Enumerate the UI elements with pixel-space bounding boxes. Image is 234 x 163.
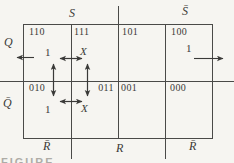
cell-code-001: 001: [121, 83, 137, 93]
axis-label-s-bar: S̄: [182, 5, 188, 17]
cell-code-011: 011: [98, 83, 114, 93]
cell-code-010: 010: [29, 83, 45, 93]
cell-value-011: X: [81, 103, 88, 114]
cell-value-110: 1: [45, 47, 51, 58]
cell-code-101: 101: [122, 27, 138, 37]
axis-label-r: R: [116, 142, 123, 154]
cell-value-100: 1: [186, 43, 192, 54]
figure-caption: FIGURE: [1, 156, 55, 163]
cell-code-111: 111: [74, 27, 89, 37]
axis-label-r-bar-left: R̄: [43, 140, 50, 152]
cell-value-111: X: [80, 46, 87, 57]
kmap-figure: S S̄ Q Q̄ R̄ R R̄ 110 111 101 100 010 01…: [0, 0, 234, 163]
cell-code-000: 000: [170, 83, 186, 93]
cell-code-100: 100: [171, 27, 187, 37]
transition-arrows: [17, 58, 223, 102]
axis-label-s: S: [69, 7, 75, 19]
axis-label-r-bar-right: R̄: [189, 140, 196, 152]
axis-label-q: Q: [4, 36, 13, 48]
cell-value-010: 1: [45, 104, 51, 115]
axis-label-q-bar: Q̄: [3, 97, 12, 109]
cell-code-110: 110: [29, 27, 45, 37]
